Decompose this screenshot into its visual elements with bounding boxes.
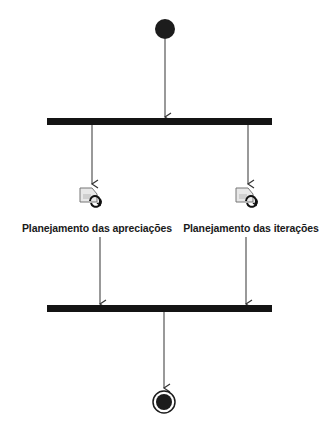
fork-bar[interactable] [47,118,272,125]
action-label-right[interactable]: Planejamento das iterações [183,222,319,234]
action-label-left[interactable]: Planejamento das apreciações [22,222,172,234]
activity-diagram-canvas [0,0,334,429]
subactivity-call-icon[interactable] [234,184,260,210]
initial-node[interactable] [155,19,175,39]
final-node[interactable] [153,391,175,413]
subactivity-call-icon[interactable] [78,184,104,210]
join-bar[interactable] [47,305,272,312]
